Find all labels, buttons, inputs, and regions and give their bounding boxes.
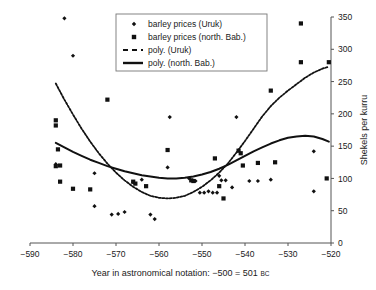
y-tick-label: 0 [338,238,343,248]
data-point-diamond [92,204,96,208]
data-point-square [325,176,329,180]
y-tick-label: 250 [338,77,352,87]
data-point-diamond [312,189,316,193]
data-point-square [213,156,217,160]
data-point-diamond [168,115,172,119]
data-point-diamond [215,191,219,195]
data-point-square [58,163,62,167]
data-point-square [269,89,273,93]
data-point-diamond [247,179,251,183]
data-point-diamond [202,191,206,195]
data-point-square [327,60,331,64]
data-point-square [299,60,303,64]
data-point-square [54,164,58,168]
data-point-diamond [166,165,170,169]
legend-marker-square [132,35,136,39]
data-point-square [299,21,303,25]
data-point-diamond [234,115,238,119]
x-tick-label: −560 [149,249,168,259]
data-point-square [256,161,260,165]
data-point-diamond [62,16,66,20]
y-tick-labels: 050100150200250300350 [338,12,352,248]
data-point-diamond [123,210,127,214]
data-point-diamond [312,149,316,153]
legend-item-label: barley prices (Uruk) [148,19,222,29]
data-point-square [54,118,58,122]
x-tick-labels: −590−580−570−560−550−540−530−520 [20,249,340,259]
x-tick-label: −570 [106,249,125,259]
data-point-diamond [71,54,75,58]
x-tick-label: −530 [278,249,297,259]
y-axis-title: Shekels per kurru [359,95,369,166]
data-point-square [54,123,58,127]
data-point-diamond [140,178,144,182]
data-point-diamond [110,212,114,216]
data-point-diamond [148,212,152,216]
data-point-square [273,160,277,164]
barley-price-chart: −590−580−570−560−550−540−530−520 0501001… [0,0,376,290]
data-point-square [217,184,221,188]
legend-item-label: poly. (north. Bab.) [148,58,215,68]
y-tick-label: 350 [338,12,352,22]
y-tick-label: 200 [338,109,352,119]
data-point-square [71,187,75,191]
x-tick-label: −590 [20,249,39,259]
y-tick-label: 100 [338,174,352,184]
data-point-square [133,181,137,185]
data-point-diamond [256,179,260,183]
x-tick-label: −520 [321,249,340,259]
y-tick-label: 150 [338,141,352,151]
data-point-diamond [269,178,273,182]
legend-item-label: barley prices (north. Bab.) [148,32,246,42]
x-tick-label: −540 [235,249,254,259]
data-point-square [58,180,62,184]
data-point-diamond [153,217,157,221]
chart-canvas: −590−580−570−560−550−540−530−520 0501001… [0,0,376,290]
data-point-diamond [230,185,234,189]
x-tick-label: −550 [192,249,211,259]
data-point-diamond [198,191,202,195]
y-tick-label: 300 [338,44,352,54]
x-tick-label: −580 [63,249,82,259]
data-point-square [191,179,195,183]
data-point-square [144,184,148,188]
data-point-diamond [206,189,210,193]
data-point-square [239,151,243,155]
data-point-diamond [211,191,215,195]
data-point-square [105,98,109,102]
data-point-diamond [224,178,228,182]
y-tick-label: 50 [338,206,348,216]
trendline-north-bab [56,136,329,179]
data-point-square [88,187,92,191]
data-point-square [241,163,245,167]
legend-item-label: poly. (Uruk) [148,45,191,55]
data-point-square [166,148,170,152]
data-point-diamond [116,212,120,216]
data-point-diamond [92,171,96,175]
x-axis-title: Year in astronomical notation: −500 = 50… [92,268,270,278]
legend: barley prices (Uruk)barley prices (north… [116,14,267,71]
data-point-square [221,196,225,200]
data-point-square [56,147,60,151]
data-point-diamond [219,178,223,182]
